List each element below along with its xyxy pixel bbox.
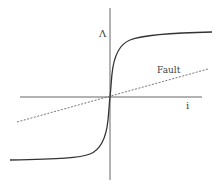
saturation-curve [10,32,212,160]
fault-line [17,69,208,122]
x-axis-label: i [186,100,189,111]
flux-current-diagram: Λ i Fault [0,0,222,186]
y-axis-label: Λ [98,28,107,39]
fault-label: Fault [157,65,181,75]
